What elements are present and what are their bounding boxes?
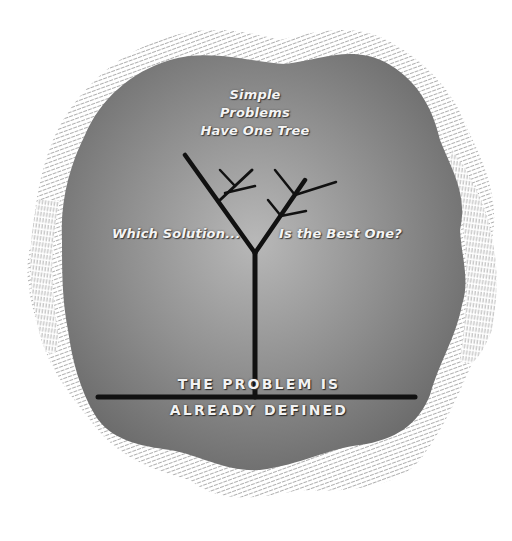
base-label-line-1: THE PROBLEM IS [96,376,422,392]
title-line-2: Problems [180,104,330,122]
diagram-canvas [0,0,512,541]
diagram-title: Simple Problems Have One Tree [180,86,330,140]
base-label-line-2: ALREADY DEFINED [96,402,422,418]
right-branch-label: Is the Best One? [279,226,402,241]
diagram-graphic [0,0,512,541]
title-line-3: Have One Tree [180,122,330,140]
title-line-1: Simple [180,86,330,104]
left-branch-label: Which Solution... [112,226,241,241]
